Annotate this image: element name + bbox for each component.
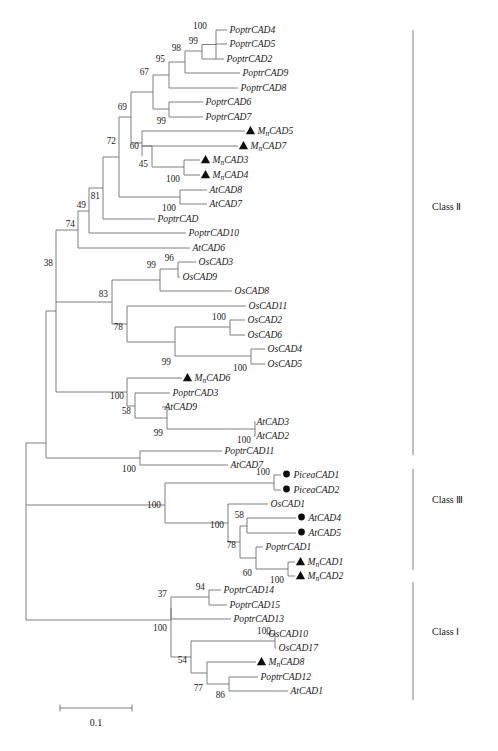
bootstrap-n99d: 99	[162, 357, 172, 367]
tip-label-poptrcad5: PoptrCAD5	[229, 38, 276, 49]
tip-label-mncad4: MnCAD4	[212, 169, 249, 181]
tip-label-mncad5: MnCAD5	[257, 125, 294, 137]
phylogenetic-tree-figure: PoptrCAD4PoptrCAD5PoptrCAD2PoptrCAD9Popt…	[0, 0, 498, 751]
tip-label-oscad6: OsCAD6	[248, 329, 283, 340]
bootstrap-n94: 94	[196, 582, 206, 592]
tip-label-poptrcad3: PoptrCAD3	[172, 387, 219, 398]
tip-label-atcad3: AtCAD3	[256, 416, 290, 427]
tip-label-poptrcad10: PoptrCAD10	[188, 227, 240, 238]
bootstrap-n99c: 99	[147, 260, 157, 270]
tip-label-poptrcad7: PoptrCAD7	[205, 111, 253, 122]
scale-bar-label: 0.1	[90, 717, 103, 728]
circle-marker-icon	[283, 486, 290, 493]
bootstrap-n95: 95	[156, 54, 166, 64]
tip-label-poptrcad9: PoptrCAD9	[242, 67, 289, 78]
tip-label-atcad2: AtCAD2	[256, 430, 290, 441]
tip-label-poptrcad8: PoptrCAD8	[240, 82, 287, 93]
bootstrap-n100h: 100	[122, 464, 136, 474]
triangle-marker-icon	[183, 373, 192, 381]
tip-label-atcad5: AtCAD5	[308, 527, 342, 538]
bootstrap-n100f: 100	[237, 435, 251, 445]
triangle-marker-icon	[296, 571, 305, 579]
bootstrap-n98: 98	[172, 43, 182, 53]
bootstrap-n83: 83	[99, 289, 109, 299]
bootstrap-n58b: 58	[235, 510, 245, 520]
tip-label-poptrcad4: PoptrCAD4	[229, 24, 276, 35]
tip-label-atcad11: PoptrCAD11	[224, 445, 275, 456]
tip-label-oscad17: OsCAD17	[279, 642, 320, 653]
tip-label-mncad7: MnCAD7	[250, 140, 288, 152]
tip-label-poptrcad1: PoptrCAD1	[265, 541, 312, 552]
scale-bar: 0.1	[60, 705, 132, 729]
bootstrap-n54: 54	[178, 655, 188, 665]
tip-label-mncad6: MnCAD6	[194, 372, 231, 384]
bootstrap-n100n: 100	[153, 623, 167, 633]
tip-label-atcad1: AtCAD1	[290, 685, 324, 696]
class-brackets: Class ⅡClass ⅢClass Ⅰ	[413, 30, 463, 700]
class-label-2: Class Ⅲ	[432, 494, 463, 505]
bootstrap-n100j: 100	[270, 575, 284, 585]
bootstrap-n77: 77	[194, 683, 204, 693]
tip-label-oscad2: OsCAD2	[248, 314, 283, 325]
class-label-3: Class Ⅰ	[432, 626, 459, 637]
bootstrap-n100a: 100	[193, 21, 207, 31]
bootstrap-n78: 78	[114, 322, 124, 332]
circle-marker-icon	[298, 514, 305, 521]
bootstrap-n45: 45	[139, 159, 149, 169]
bootstrap-n37: 37	[158, 589, 168, 599]
tip-label-poptrcad: PoptrCAD	[157, 213, 199, 224]
triangle-marker-icon	[201, 155, 210, 163]
tip-label-atcad8: AtCAD8	[209, 184, 243, 195]
bootstrap-n86: 86	[216, 690, 226, 700]
tip-label-poptrcad2: PoptrCAD2	[226, 53, 273, 64]
triangle-marker-icon	[246, 126, 255, 134]
tip-label-mncad8: MnCAD8	[268, 656, 305, 668]
bootstrap-n60b: 60	[243, 568, 253, 578]
tip-label-poptrcad15: PoptrCAD15	[229, 599, 281, 610]
triangle-marker-icon	[239, 141, 248, 149]
class-label-1: Class Ⅱ	[432, 201, 461, 212]
bootstrap-n69: 69	[118, 102, 128, 112]
tip-label-atcad4: AtCAD4	[308, 512, 342, 523]
bootstrap-n100b: 100	[166, 174, 180, 184]
bootstrap-n99e: 99	[154, 428, 164, 438]
tip-labels: PoptrCAD4PoptrCAD5PoptrCAD2PoptrCAD9Popt…	[157, 24, 344, 696]
tip-label-piceacad1: PiceaCAD1	[293, 469, 340, 480]
bootstrap-n72: 72	[107, 136, 117, 146]
bootstrap-n81: 81	[91, 191, 101, 201]
bootstrap-n60: 60	[130, 141, 140, 151]
bootstrap-n100e: 100	[233, 363, 247, 373]
bootstrap-n100k: 100	[210, 520, 224, 530]
circle-marker-icon	[298, 529, 305, 536]
tip-label-poptrcad13: PoptrCAD13	[233, 613, 285, 624]
bootstrap-n58a: 58	[122, 406, 132, 416]
triangle-marker-icon	[296, 557, 305, 565]
tip-label-oscad9: OsCAD9	[183, 271, 218, 282]
circle-marker-icon	[283, 471, 290, 478]
bootstrap-n99a: 99	[189, 36, 199, 46]
tip-label-atcad7: AtCAD7	[209, 198, 244, 209]
bootstrap-n67: 67	[140, 67, 150, 77]
bootstrap-n74: 74	[66, 219, 76, 229]
tip-label-poptrcad14: PoptrCAD14	[223, 584, 275, 595]
bootstrap-n96: 96	[165, 253, 175, 263]
tip-label-oscad1: OsCAD1	[271, 498, 306, 509]
tip-label-oscad8: OsCAD8	[235, 285, 270, 296]
bootstrap-n100m: 100	[257, 626, 271, 636]
tip-label-oscad3: OsCAD3	[199, 256, 234, 267]
bootstrap-n100d: 100	[212, 312, 226, 322]
tip-label-oscad5: OsCAD5	[268, 358, 303, 369]
triangle-marker-icon	[257, 657, 266, 665]
bootstrap-n100l: 100	[147, 500, 161, 510]
tip-label-poptrcad6: PoptrCAD6	[205, 96, 252, 107]
tip-label-poptrcad12: PoptrCAD12	[260, 671, 312, 682]
tip-label-atcad9: AtCAD9	[164, 401, 198, 412]
bootstrap-n49: 49	[77, 200, 87, 210]
tree-canvas: PoptrCAD4PoptrCAD5PoptrCAD2PoptrCAD9Popt…	[0, 0, 498, 751]
triangle-marker-icon	[201, 170, 210, 178]
tip-label-mncad2: MnCAD2	[307, 570, 344, 582]
tip-label-mncad1: MnCAD1	[307, 556, 344, 568]
tip-label-oscad11: OsCAD11	[249, 300, 288, 311]
bootstrap-n38: 38	[44, 258, 54, 268]
tip-label-oscad10: OsCAD10	[269, 628, 309, 639]
